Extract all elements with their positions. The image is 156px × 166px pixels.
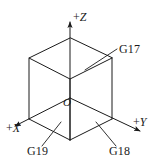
- z-axis-sign: +: [73, 10, 80, 24]
- g18-leader-line: [96, 122, 116, 146]
- x-axis-line: [15, 98, 70, 126]
- x-axis-sign: +: [6, 121, 13, 135]
- cube-bottom-right-edge: [70, 119, 112, 140]
- z-axis-label: +Z: [73, 11, 86, 23]
- origin-label: O: [63, 97, 71, 108]
- y-axis-sign: +: [133, 115, 140, 129]
- x-axis-letter: X: [13, 121, 20, 135]
- leader-lines-group: [42, 49, 117, 146]
- g19-label: G19: [27, 145, 48, 157]
- figure-container: +Z +X +Y O G17 G18 G19: [0, 0, 156, 166]
- y-axis-line: [70, 98, 140, 131]
- y-axis-letter: Y: [140, 115, 147, 129]
- y-axis-label: +Y: [133, 116, 146, 128]
- g17-label: G17: [119, 43, 140, 55]
- cube-axes-drawing: [0, 0, 156, 166]
- x-axis-label: +X: [6, 122, 20, 134]
- axes-group: [15, 22, 140, 140]
- g18-label: G18: [109, 145, 130, 157]
- z-axis-letter: Z: [80, 10, 87, 24]
